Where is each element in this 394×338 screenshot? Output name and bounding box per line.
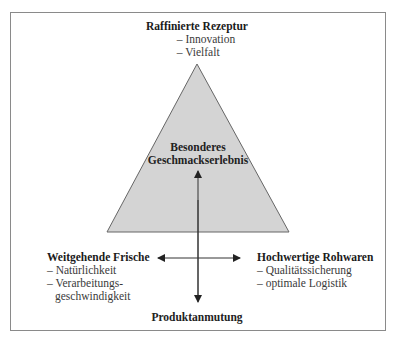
left-node-title: Weitgehende Frische — [47, 251, 150, 264]
right-node-item: – Qualitätssicherung — [257, 264, 373, 277]
right-node-item: – optimale Logistik — [257, 277, 373, 290]
top-node-item: – Innovation — [177, 33, 235, 46]
center-node-line1: Besonderes — [140, 141, 256, 154]
bottom-node: Produktanmutung — [0, 311, 394, 324]
top-node: Raffinierte Rezeptur – Innovation – Viel… — [0, 20, 394, 59]
bottom-node-title: Produktanmutung — [0, 311, 394, 324]
right-node: Hochwertige Rohwaren – Qualitätssicherun… — [257, 251, 373, 290]
left-node-item-continuation: geschwindigkeit — [47, 290, 150, 303]
top-node-item: – Vielfalt — [177, 46, 235, 59]
top-node-title: Raffinierte Rezeptur — [0, 20, 394, 33]
top-node-items: – Innovation – Vielfalt — [177, 33, 235, 59]
center-node-line2: Geschmackserlebnis — [140, 154, 256, 167]
left-node: Weitgehende Frische – Natürlichkeit – Ve… — [47, 251, 150, 303]
left-node-item: – Natürlichkeit — [47, 264, 150, 277]
center-node: Besonderes Geschmackserlebnis — [140, 141, 256, 167]
right-node-title: Hochwertige Rohwaren — [257, 251, 373, 264]
left-node-item: – Verarbeitungs- — [47, 277, 150, 290]
